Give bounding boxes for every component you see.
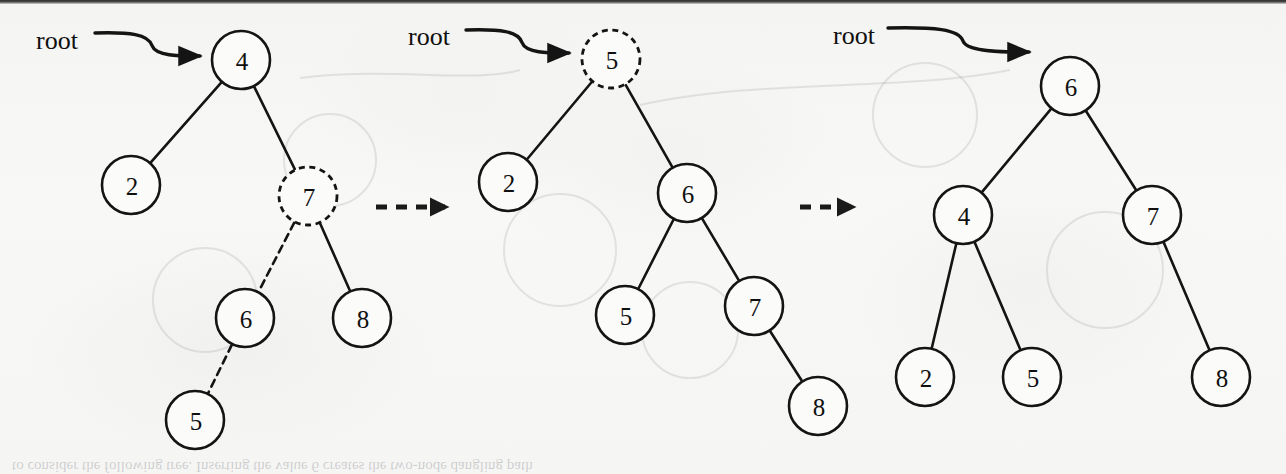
- tree-node-label: 5: [606, 47, 619, 74]
- bleed-through-text-layer: to consider the following tree. Insertin…: [12, 459, 533, 474]
- tree-edge-a6-a7: [1086, 111, 1136, 189]
- tree-panels-layer: 427685root526578root647258root: [36, 21, 1250, 450]
- tree-edge-m5r-m2: [527, 82, 591, 159]
- tree-edge-n4-n7: [254, 87, 294, 169]
- tree-node-label: 5: [1027, 365, 1040, 392]
- root-pointer-arrow: [466, 30, 569, 53]
- tree-node-label: 8: [813, 394, 826, 421]
- tree-edge-a7-a8: [1164, 243, 1209, 350]
- tree-node-label: 7: [1147, 203, 1160, 230]
- root-label: root: [408, 22, 451, 51]
- tree-edge-a4-a2: [932, 244, 956, 348]
- root-pointer-arrow: [95, 33, 200, 56]
- tree-node-label: 6: [240, 306, 253, 333]
- tree-edge-a4-a5: [975, 243, 1020, 350]
- tree-node-label: 6: [1065, 74, 1078, 101]
- figure-canvas: 427685root526578root647258root to consid…: [0, 0, 1286, 474]
- tree-edge-m6-m7: [702, 219, 738, 280]
- tree-node-label: 4: [236, 48, 249, 75]
- tree-node-label: 2: [503, 170, 516, 197]
- bst-insertion-diagram: 427685root526578root647258root to consid…: [0, 0, 1286, 474]
- bleed-through-text-0: to consider the following tree. Insertin…: [12, 459, 533, 474]
- tree-node-label: 8: [357, 306, 370, 333]
- tree-edge-n7-n8: [320, 223, 350, 290]
- root-label: root: [833, 21, 876, 50]
- tree-node-label: 8: [1216, 365, 1229, 392]
- tree-node-label: 2: [920, 365, 933, 392]
- tree-node-label: 5: [620, 303, 633, 330]
- panel-after: 647258root: [833, 21, 1250, 407]
- tree-node-label: 6: [682, 181, 695, 208]
- tree-edge-n7-n6: [259, 223, 294, 292]
- root-label: root: [36, 26, 79, 55]
- tree-node-label: 2: [126, 173, 139, 200]
- tree-edge-a6-a4: [982, 109, 1051, 192]
- tree-edge-m5r-m6: [626, 85, 672, 167]
- tree-edge-m6-m5: [639, 220, 674, 289]
- tree-node-label: 7: [303, 184, 316, 211]
- tree-edge-m7-m8: [770, 331, 802, 380]
- panel-before: 427685root: [36, 26, 391, 450]
- tree-node-label: 5: [190, 408, 203, 435]
- tree-node-label: 7: [749, 294, 762, 321]
- root-pointer-arrow: [888, 28, 1029, 52]
- panel-middle: 526578root: [408, 22, 847, 436]
- tree-node-label: 4: [958, 203, 971, 230]
- tree-edge-n4-n2: [151, 83, 221, 163]
